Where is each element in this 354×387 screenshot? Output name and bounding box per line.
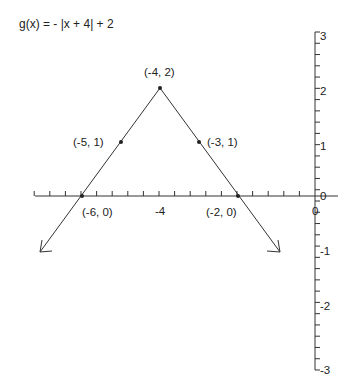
graph: (-4, 2) (-5, 1) (-3, 1) (-6, 0) (-2, 0) … <box>0 0 354 387</box>
label-right0: (-2, 0) <box>206 206 237 218</box>
y-label-0: 0 <box>320 190 326 202</box>
point-vertex <box>158 86 162 90</box>
label-left0: (-6, 0) <box>82 206 113 218</box>
right-arrow-icon <box>267 240 280 252</box>
point-right0 <box>236 194 240 198</box>
y-label-neg3: -3 <box>320 364 330 376</box>
graph-line <box>40 88 280 252</box>
y-label-1: 1 <box>320 140 326 152</box>
x-label-0: 0 <box>312 205 318 217</box>
y-label-2: 2 <box>320 85 326 97</box>
point-left0 <box>80 194 84 198</box>
y-label-neg2: -2 <box>320 300 330 312</box>
label-vertex: (-4, 2) <box>144 66 175 78</box>
point-right1 <box>197 140 201 144</box>
y-label-3: 3 <box>320 30 326 42</box>
label-right1: (-3, 1) <box>207 136 238 148</box>
x-label-neg4: -4 <box>155 205 166 217</box>
y-label-neg1: -1 <box>320 245 330 257</box>
point-left1 <box>119 140 123 144</box>
x-axis-ticks <box>34 191 299 196</box>
label-left1: (-5, 1) <box>73 136 104 148</box>
